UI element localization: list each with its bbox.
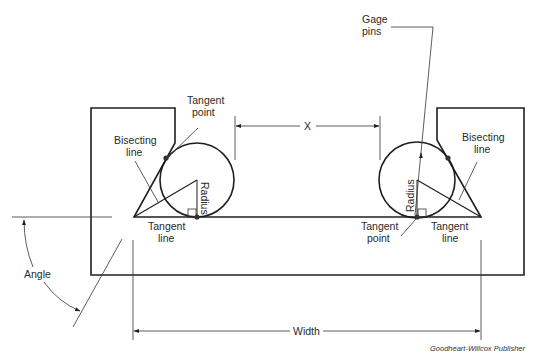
publisher-credit: Goodheart-Willcox Publisher: [430, 344, 525, 353]
left-tangent-point-bottom: [194, 214, 199, 219]
angle-arc-upper: [24, 220, 33, 267]
label-radius-left: Radius: [199, 182, 211, 215]
label-dimension-x: X: [304, 120, 311, 132]
label-tangent-line-left-2: line: [158, 232, 175, 244]
label-tangent-point-top-1: Tangent: [187, 94, 224, 106]
right-tangent-point-top: [445, 155, 450, 160]
label-tangent-point-top-2: point: [192, 106, 215, 118]
right-tangent-point-bottom: [414, 214, 419, 219]
label-dimension-width: Width: [293, 325, 320, 337]
label-gage-pins-1: Gage: [362, 13, 388, 25]
label-tangent-line-right-2: line: [442, 232, 459, 244]
label-bisecting-right-1: Bisecting: [462, 131, 505, 143]
label-bisecting-left-2: line: [126, 146, 143, 158]
angle-arc-lower: [44, 282, 80, 311]
label-gage-pins-2: pins: [362, 25, 381, 37]
label-bisecting-left-1: Bisecting: [114, 134, 157, 146]
label-tangent-line-left-1: Tangent: [148, 220, 185, 232]
left-tangent-point-top: [163, 155, 168, 160]
right-tangent-point-leader: [401, 219, 416, 236]
label-radius-right: Radius: [404, 179, 416, 212]
angle-inclined-ref: [73, 239, 122, 327]
label-tangent-line-right-1: Tangent: [431, 220, 468, 232]
right-vertex-to-center: [417, 180, 481, 217]
label-tangent-point-bottom-2: point: [367, 232, 390, 244]
label-bisecting-right-2: line: [474, 143, 491, 155]
dovetail-gage-pin-diagram: Gage pins Tangent point Bisecting line B…: [0, 0, 539, 360]
label-tangent-point-bottom-1: Tangent: [361, 220, 398, 232]
label-angle: Angle: [24, 268, 51, 280]
